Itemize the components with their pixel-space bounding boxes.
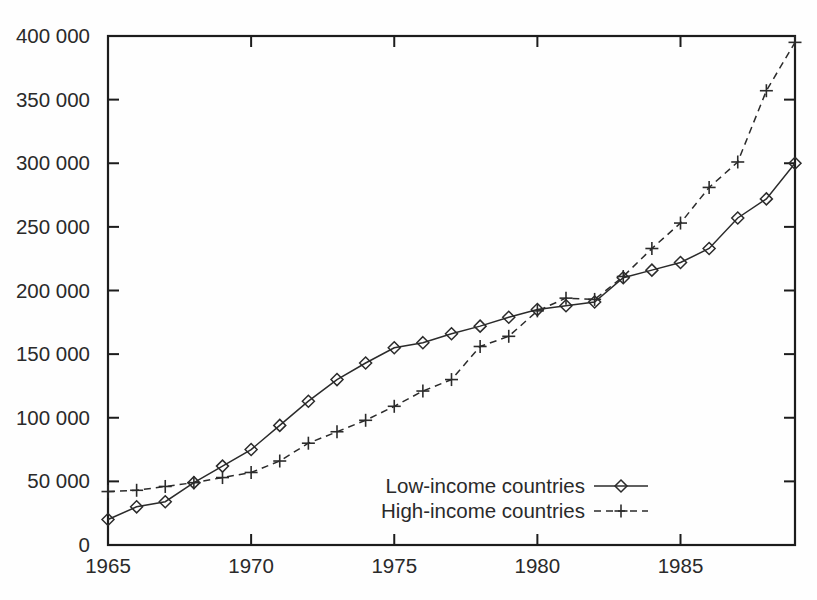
data-series-2: [102, 36, 802, 498]
legend-label-1: Low-income countries: [386, 474, 585, 497]
x-tick-label: 1970: [228, 554, 274, 577]
series-polyline: [108, 163, 795, 519]
x-tick-label: 1965: [85, 554, 131, 577]
y-tick-label: 400 000: [16, 24, 90, 47]
y-tick-label: 200 000: [16, 279, 90, 302]
y-tick-label: 150 000: [16, 342, 90, 365]
x-tick-label: 1980: [515, 554, 561, 577]
y-tick-label: 50 000: [27, 469, 90, 492]
chart-figure: 050 000100 000150 000200 000250 000300 0…: [0, 0, 817, 600]
y-tick-label: 300 000: [16, 151, 90, 174]
x-tick-label: 1985: [658, 554, 704, 577]
line-chart-canvas: 050 000100 000150 000200 000250 000300 0…: [0, 0, 817, 600]
series-polyline: [108, 42, 795, 491]
chart-legend: Low-income countriesHigh-income countrie…: [381, 474, 648, 522]
y-axis-tickmarks: [108, 100, 795, 482]
y-axis-tick-labels: 050 000100 000150 000200 000250 000300 0…: [16, 24, 90, 556]
y-tick-label: 100 000: [16, 406, 90, 429]
legend-label-2: High-income countries: [381, 499, 585, 522]
plot-frame: [108, 36, 795, 545]
x-axis-tickmarks: [108, 36, 681, 545]
y-tick-label: 350 000: [16, 88, 90, 111]
data-series-layer: [102, 36, 802, 526]
y-tick-label: 250 000: [16, 215, 90, 238]
y-tick-label: 0: [79, 533, 90, 556]
x-axis-tick-labels: 19651970197519801985: [85, 554, 703, 577]
x-tick-label: 1975: [371, 554, 417, 577]
data-series-1: [102, 157, 801, 525]
